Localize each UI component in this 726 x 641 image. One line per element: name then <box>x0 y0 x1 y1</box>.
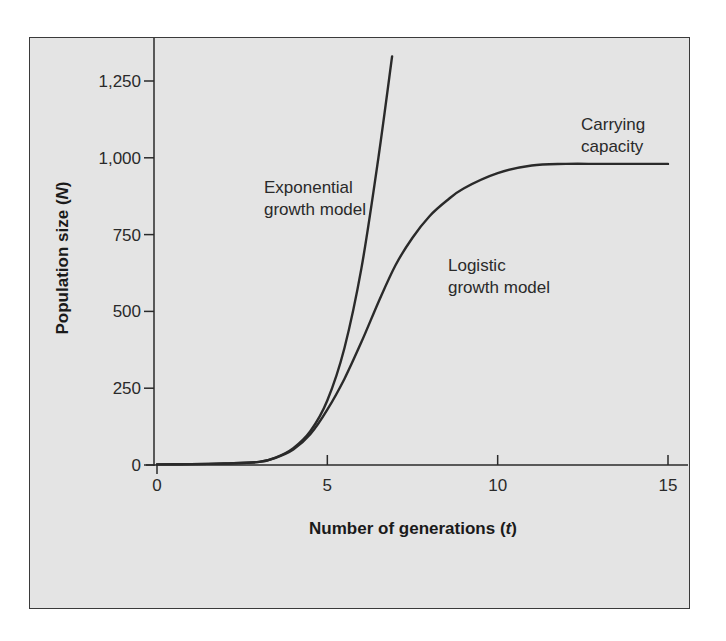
growth-chart: 02505007501,0001,250 051015 Exponential … <box>0 0 726 641</box>
x-tick-label: 10 <box>488 476 507 495</box>
y-axis-title: Population size (N) <box>53 181 72 334</box>
y-tick-label: 0 <box>132 456 141 475</box>
x-ticks: 051015 <box>152 455 677 495</box>
logistic-label-line1: Logistic <box>448 256 506 275</box>
y-tick-label: 500 <box>113 302 141 321</box>
x-tick-label: 15 <box>659 476 678 495</box>
y-tick-label: 750 <box>113 226 141 245</box>
axes <box>146 38 688 466</box>
carrying-capacity-label-line2: capacity <box>581 137 644 156</box>
y-tick-label: 1,250 <box>98 72 141 91</box>
exponential-growth-curve <box>157 56 392 464</box>
carrying-capacity-label-line1: Carrying <box>581 115 645 134</box>
logistic-label-line2: growth model <box>448 278 550 297</box>
x-tick-label: 5 <box>323 476 332 495</box>
exponential-label-line2: growth model <box>264 200 366 219</box>
y-tick-label: 250 <box>113 379 141 398</box>
y-tick-label: 1,000 <box>98 149 141 168</box>
y-ticks: 02505007501,0001,250 <box>98 72 154 475</box>
logistic-growth-curve <box>157 164 668 465</box>
x-axis-title: Number of generations (t) <box>309 519 517 538</box>
annotations: Exponential growth model Logistic growth… <box>264 115 645 297</box>
exponential-label-line1: Exponential <box>264 178 353 197</box>
x-tick-label: 0 <box>152 476 161 495</box>
